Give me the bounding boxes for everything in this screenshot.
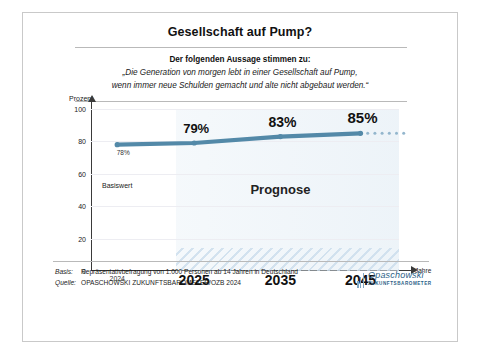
data-point (358, 131, 363, 136)
data-point-label: 78% (117, 149, 130, 156)
y-axis-tick-label: 20 (78, 235, 86, 242)
quote-line-2: wenn immer neue Schulden gemacht und alt… (23, 81, 457, 90)
basis-text: Repräsentativbefragung von 1.000 Persone… (81, 268, 298, 275)
plot-area: 02040608010078%79%83%85%BasiswertPrognos… (91, 109, 399, 271)
y-axis-tick-label: 40 (78, 203, 86, 210)
logo-subtitle: ZUKUNFTSBAROMETER (368, 281, 432, 286)
trailing-dot (381, 132, 384, 135)
slide-canvas: Gesellschaft auf Pump? Der folgenden Aus… (22, 12, 458, 342)
basis-label: Basis: (55, 268, 81, 275)
quote-line-1: „Die Generation von morgen lebt in einer… (23, 68, 457, 77)
data-point (192, 140, 197, 145)
chart-annotation: Prognose (250, 182, 310, 197)
trailing-dot (395, 132, 398, 135)
footer-source: Quelle:OPASCHOWSKI ZUKUNFTSBAROMETER/OZB… (55, 279, 241, 286)
logo-name: Opaschowski (368, 270, 424, 280)
trailing-dot (388, 132, 391, 135)
data-point-label: 85% (347, 109, 377, 126)
line-chart: Prozent Jahre 02040608010078%79%83%85%Ba… (41, 95, 441, 267)
divider-footer (53, 261, 429, 262)
data-point-label: 83% (268, 114, 296, 130)
data-point (115, 142, 120, 147)
y-axis-arrow (88, 95, 96, 102)
footer-basis: Basis:Repräsentativbefragung von 1.000 P… (55, 268, 298, 275)
trailing-dot (402, 132, 405, 135)
bar-chart-icon (357, 270, 365, 288)
divider-top (75, 47, 407, 48)
source-text: OPASCHOWSKI ZUKUNFTSBAROMETER/OZB 2024 (81, 279, 241, 286)
trailing-dot (373, 132, 376, 135)
chart-annotation: Basiswert (102, 182, 132, 189)
page-title: Gesellschaft auf Pump? (23, 25, 457, 39)
series-line (91, 109, 399, 271)
y-axis-tick-label: 100 (74, 106, 86, 113)
opaschowski-logo: Opaschowski ZUKUNFTSBAROMETER (357, 269, 433, 291)
data-point (278, 134, 283, 139)
chart-subtitle: Der folgenden Aussage stimmen zu: (23, 55, 457, 64)
trailing-dot (366, 132, 369, 135)
y-axis-tick-label: 80 (78, 138, 86, 145)
data-point-label: 79% (183, 121, 209, 136)
source-label: Quelle: (55, 279, 81, 286)
y-axis-tick-label: 60 (78, 170, 86, 177)
